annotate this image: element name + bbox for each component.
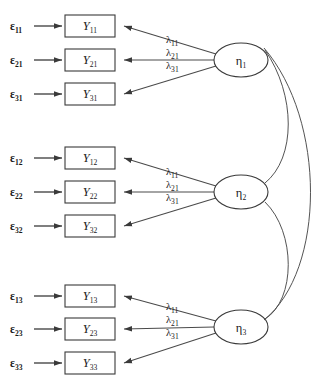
- factor-block-3: ε13 ε23 ε33 Y13 Y23 Y33 λ11 λ21 λ31 η3: [10, 285, 268, 374]
- error-label-23: ε23: [10, 323, 23, 338]
- covariance-arcs: [264, 48, 311, 320]
- loading-label-33: λ31: [166, 327, 179, 341]
- loading-label-23: λ21: [166, 314, 179, 328]
- covariance-arc-eta1-eta2: [265, 50, 288, 183]
- loading-label-32: λ31: [166, 192, 179, 206]
- error-label-33: ε33: [10, 357, 23, 372]
- loading-label-11: λ11: [166, 34, 179, 48]
- sem-diagram: ε11 ε21 ε31 Y11 Y21 Y31 λ11 λ21 λ31 η1: [0, 0, 330, 392]
- error-label-12: ε12: [10, 152, 23, 167]
- error-label-31: ε31: [10, 88, 23, 103]
- error-label-21: ε21: [10, 54, 23, 69]
- loading-label-13: λ11: [166, 301, 179, 315]
- factor-block-1: ε11 ε21 ε31 Y11 Y21 Y31 λ11 λ21 λ31 η1: [10, 15, 268, 105]
- factor-block-2: ε12 ε22 ε32 Y12 Y22 Y32 λ11 λ21 λ31 η2: [10, 147, 268, 237]
- loading-label-22: λ21: [166, 179, 179, 193]
- loading-label-21: λ21: [166, 47, 179, 61]
- error-label-11: ε11: [10, 20, 22, 35]
- sem-canvas: ε11 ε21 ε31 Y11 Y21 Y31 λ11 λ21 λ31 η1: [0, 0, 330, 392]
- covariance-arc-eta2-eta3: [265, 202, 288, 319]
- error-label-22: ε22: [10, 186, 23, 201]
- loading-label-31: λ31: [166, 60, 179, 74]
- loading-label-12: λ11: [166, 166, 179, 180]
- error-label-32: ε32: [10, 220, 23, 235]
- error-label-13: ε13: [10, 290, 23, 305]
